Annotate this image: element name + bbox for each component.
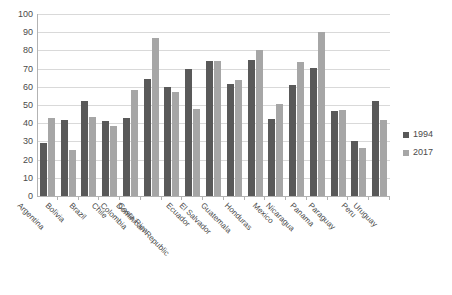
bar-2017-nicaragua[interactable] xyxy=(297,62,304,196)
bar-1994-el-salvador[interactable] xyxy=(206,61,213,196)
bar-group xyxy=(141,14,162,196)
bar-2017-honduras[interactable] xyxy=(256,50,263,196)
bar-1994-mexico[interactable] xyxy=(268,119,275,196)
x-axis-label-cell: Paraguay xyxy=(328,201,349,291)
y-axis-tick-label: 0 xyxy=(1,192,33,201)
x-axis-tick xyxy=(224,196,245,200)
x-axis-labels: ArgentinaBoliviaBrazilChileColombiaCosta… xyxy=(37,201,390,291)
x-axis-tick xyxy=(120,196,141,200)
bar-1994-argentina[interactable] xyxy=(40,143,47,196)
bar-group xyxy=(79,14,100,196)
bar-group xyxy=(182,14,203,196)
x-axis-tick xyxy=(37,196,58,200)
bars-layer xyxy=(37,14,390,196)
bar-group xyxy=(203,14,224,196)
bar-group xyxy=(58,14,79,196)
bar-group xyxy=(286,14,307,196)
bar-1994-chile[interactable] xyxy=(102,121,109,196)
bar-group xyxy=(307,14,328,196)
legend-label: 1994 xyxy=(413,130,433,139)
x-axis-tick xyxy=(182,196,203,200)
bar-group xyxy=(162,14,183,196)
bar-2017-ecuador[interactable] xyxy=(193,109,200,196)
x-axis-label-cell: Uruguay xyxy=(369,201,390,291)
bar-1994-nicaragua[interactable] xyxy=(289,85,296,196)
bar-group xyxy=(245,14,266,196)
x-axis-tick xyxy=(203,196,224,200)
legend-item[interactable]: 1994 xyxy=(403,130,451,139)
x-axis-tick xyxy=(328,196,349,200)
y-axis-tick-label: 90 xyxy=(1,28,33,37)
y-axis-tick-label: 80 xyxy=(1,46,33,55)
bar-2017-uruguay[interactable] xyxy=(380,120,387,196)
bar-group xyxy=(369,14,390,196)
bar-2017-el-salvador[interactable] xyxy=(214,61,221,196)
y-axis-tick-label: 30 xyxy=(1,137,33,146)
x-axis-tick xyxy=(141,196,162,200)
y-axis-tick-label: 40 xyxy=(1,119,33,128)
bar-group xyxy=(37,14,58,196)
bar-2017-paraguay[interactable] xyxy=(339,110,346,196)
bar-1994-colombia[interactable] xyxy=(123,118,130,196)
bar-2017-costa-rica[interactable] xyxy=(152,38,159,196)
legend-swatch-icon xyxy=(403,150,409,156)
y-axis-tick-label: 100 xyxy=(1,10,33,19)
bar-group xyxy=(224,14,245,196)
bar-chart: 1009080706050403020100 ArgentinaBoliviaB… xyxy=(0,0,452,295)
y-axis-tick-label: 70 xyxy=(1,65,33,74)
bar-1994-ecuador[interactable] xyxy=(185,69,192,196)
bar-2017-bolivia[interactable] xyxy=(69,150,76,196)
bar-1994-brazil[interactable] xyxy=(81,101,88,196)
bar-2017-panama[interactable] xyxy=(318,32,325,196)
x-axis-tick xyxy=(162,196,183,200)
legend: 19942017 xyxy=(403,130,451,166)
bar-1994-dominican-republic[interactable] xyxy=(164,87,171,196)
bar-2017-peru[interactable] xyxy=(359,148,366,196)
y-axis-tick-label: 50 xyxy=(1,101,33,110)
bar-1994-costa-rica[interactable] xyxy=(144,79,151,196)
bar-group xyxy=(328,14,349,196)
x-axis-tick xyxy=(348,196,369,200)
x-axis-ticks xyxy=(37,196,390,200)
y-axis-tick-label: 60 xyxy=(1,83,33,92)
bar-1994-guatemala[interactable] xyxy=(227,84,234,196)
bar-2017-dominican-republic[interactable] xyxy=(172,92,179,196)
bar-2017-mexico[interactable] xyxy=(276,104,283,196)
legend-label: 2017 xyxy=(413,148,433,157)
bar-1994-uruguay[interactable] xyxy=(372,101,379,196)
legend-swatch-icon xyxy=(403,132,409,138)
bar-group xyxy=(120,14,141,196)
x-axis-tick xyxy=(245,196,266,200)
bar-2017-argentina[interactable] xyxy=(48,118,55,196)
bar-group xyxy=(348,14,369,196)
bar-2017-chile[interactable] xyxy=(110,126,117,196)
x-axis-tick xyxy=(99,196,120,200)
y-axis-tick-label: 20 xyxy=(1,156,33,165)
bar-2017-brazil[interactable] xyxy=(89,117,96,196)
y-axis-tick-label: 10 xyxy=(1,174,33,183)
bar-group xyxy=(99,14,120,196)
x-axis-tick xyxy=(369,196,390,200)
y-axis: 1009080706050403020100 xyxy=(0,0,33,295)
bar-1994-honduras[interactable] xyxy=(248,60,255,197)
legend-item[interactable]: 2017 xyxy=(403,148,451,157)
bar-2017-colombia[interactable] xyxy=(131,90,138,196)
x-axis-tick xyxy=(265,196,286,200)
bar-1994-paraguay[interactable] xyxy=(331,111,338,196)
bar-1994-peru[interactable] xyxy=(351,141,358,197)
bar-2017-guatemala[interactable] xyxy=(235,80,242,196)
bar-1994-bolivia[interactable] xyxy=(61,120,68,196)
x-axis-tick xyxy=(58,196,79,200)
bar-1994-panama[interactable] xyxy=(310,68,317,196)
bar-group xyxy=(265,14,286,196)
x-axis-tick xyxy=(307,196,328,200)
x-axis-tick xyxy=(286,196,307,200)
x-axis-tick xyxy=(79,196,100,200)
